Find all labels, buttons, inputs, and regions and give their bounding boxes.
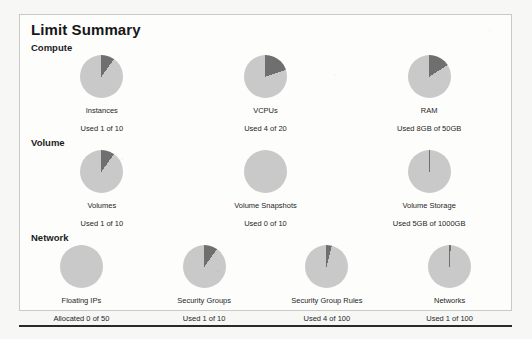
tile-volume-snapshots[interactable]: Volume Snapshots Used 0 of 10 — [184, 150, 348, 228]
pie-chart-vcpus — [244, 55, 287, 98]
pie-chart-floating-ips — [60, 245, 103, 288]
tile-label: RAM — [421, 106, 438, 115]
tile-volume-storage[interactable]: Volume Storage Used 5GB of 1000GB — [347, 150, 511, 228]
tile-security-groups[interactable]: Security Groups Used 1 of 10 — [143, 245, 266, 323]
tile-quota: Allocated 0 of 50 — [53, 314, 109, 323]
tile-label: Instances — [86, 106, 118, 115]
pie-chart-security-groups — [183, 245, 226, 288]
tile-quota: Used 4 of 20 — [244, 124, 287, 133]
pie-chart-instances — [80, 55, 123, 98]
pie-chart-security-group-rules — [305, 245, 348, 288]
tile-quota: Used 5GB of 1000GB — [393, 219, 466, 228]
tile-label: Networks — [434, 296, 465, 305]
tile-group-network: Floating IPs Allocated 0 of 50 Security … — [20, 245, 511, 323]
tile-label: Security Groups — [177, 296, 231, 305]
tile-quota: Used 8GB of 50GB — [397, 124, 461, 133]
tile-quota: Used 0 of 10 — [244, 219, 287, 228]
section-heading-compute: Compute — [31, 42, 72, 53]
limit-summary-panel: Limit Summary Compute Instances Used 1 o… — [19, 14, 512, 311]
page-title: Limit Summary — [31, 21, 141, 38]
tile-label: Floating IPs — [62, 296, 102, 305]
section-heading-network: Network — [31, 232, 68, 243]
tile-label: Volumes — [87, 201, 116, 210]
pie-chart-volumes — [80, 150, 123, 193]
tile-quota: Used 1 of 10 — [81, 124, 124, 133]
pie-chart-networks — [428, 245, 471, 288]
tile-label: Volume Storage — [402, 201, 455, 210]
tile-security-group-rules[interactable]: Security Group Rules Used 4 of 100 — [266, 245, 389, 323]
tile-instances[interactable]: Instances Used 1 of 10 — [20, 55, 184, 133]
tile-quota: Used 4 of 100 — [304, 314, 351, 323]
pie-chart-volume-storage — [408, 150, 451, 193]
tile-quota: Used 1 of 10 — [183, 314, 226, 323]
tile-group-compute: Instances Used 1 of 10 VCPUs Used 4 of 2… — [20, 55, 511, 133]
tile-vcpus[interactable]: VCPUs Used 4 of 20 — [184, 55, 348, 133]
tile-group-volume: Volumes Used 1 of 10 Volume Snapshots Us… — [20, 150, 511, 228]
tile-quota: Used 1 of 100 — [426, 314, 473, 323]
tile-networks[interactable]: Networks Used 1 of 100 — [388, 245, 511, 323]
pie-chart-ram — [408, 55, 451, 98]
tile-label: VCPUs — [253, 106, 278, 115]
footer-divider — [19, 325, 512, 327]
tile-label: Security Group Rules — [291, 296, 362, 305]
tile-quota: Used 1 of 10 — [81, 219, 124, 228]
tile-volumes[interactable]: Volumes Used 1 of 10 — [20, 150, 184, 228]
tile-label: Volume Snapshots — [234, 201, 297, 210]
tile-floating-ips[interactable]: Floating IPs Allocated 0 of 50 — [20, 245, 143, 323]
pie-chart-volume-snapshots — [244, 150, 287, 193]
tile-ram[interactable]: RAM Used 8GB of 50GB — [347, 55, 511, 133]
section-heading-volume: Volume — [31, 137, 65, 148]
